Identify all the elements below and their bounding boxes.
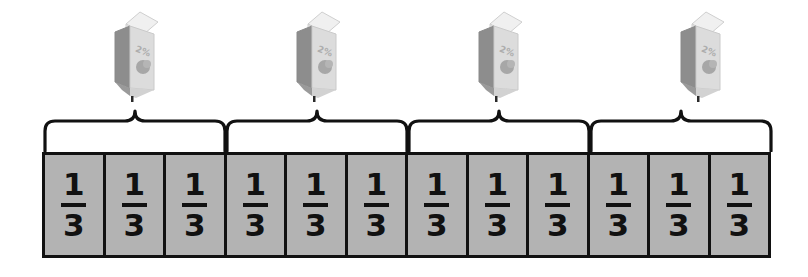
- fraction-denominator: 3: [244, 209, 266, 241]
- milk-carton-2: 2%: [288, 10, 350, 102]
- fraction-cell: 13: [45, 155, 106, 255]
- fraction-denominator: 3: [668, 209, 690, 241]
- fraction-numerator: 1: [365, 169, 387, 201]
- fraction-numerator: 1: [244, 169, 266, 201]
- fraction-cell: 13: [348, 155, 409, 255]
- milk-carton-3: 2%: [470, 10, 532, 102]
- fraction-denominator: 3: [426, 209, 448, 241]
- fraction-bar: 131313131313131313131313: [42, 152, 771, 258]
- fraction-cell: 13: [650, 155, 711, 255]
- fraction-numerator: 1: [123, 169, 145, 201]
- fraction-label: 13: [727, 169, 752, 241]
- fraction-cell: 13: [529, 155, 590, 255]
- fraction-denominator: 3: [728, 209, 750, 241]
- fraction-numerator: 1: [728, 169, 750, 201]
- fraction-cell: 13: [106, 155, 167, 255]
- fraction-diagram: 2% 2%: [0, 0, 808, 277]
- group-brace-1: [42, 106, 228, 152]
- fraction-label: 13: [485, 169, 510, 241]
- fraction-cell: 13: [227, 155, 288, 255]
- fraction-label: 13: [666, 169, 691, 241]
- fraction-numerator: 1: [547, 169, 569, 201]
- fraction-numerator: 1: [426, 169, 448, 201]
- fraction-denominator: 3: [607, 209, 629, 241]
- fraction-label: 13: [182, 169, 207, 241]
- fraction-label: 13: [545, 169, 570, 241]
- fraction-label: 13: [606, 169, 631, 241]
- fraction-cell: 13: [166, 155, 227, 255]
- milk-carton-4: 2%: [672, 10, 734, 102]
- fraction-cell: 13: [287, 155, 348, 255]
- fraction-numerator: 1: [668, 169, 690, 201]
- fraction-cell: 13: [469, 155, 530, 255]
- fraction-label: 13: [424, 169, 449, 241]
- group-brace-4: [588, 106, 774, 152]
- group-brace-3: [406, 106, 592, 152]
- fraction-numerator: 1: [305, 169, 327, 201]
- group-brace-2: [224, 106, 410, 152]
- fraction-cell: 13: [711, 155, 769, 255]
- fraction-label: 13: [61, 169, 86, 241]
- fraction-denominator: 3: [547, 209, 569, 241]
- fraction-denominator: 3: [123, 209, 145, 241]
- fraction-numerator: 1: [486, 169, 508, 201]
- fraction-label: 13: [364, 169, 389, 241]
- fraction-denominator: 3: [184, 209, 206, 241]
- fraction-label: 13: [122, 169, 147, 241]
- fraction-cell: 13: [408, 155, 469, 255]
- fraction-label: 13: [303, 169, 328, 241]
- fraction-denominator: 3: [486, 209, 508, 241]
- milk-carton-1: 2%: [106, 10, 168, 102]
- fraction-numerator: 1: [63, 169, 85, 201]
- fraction-denominator: 3: [63, 209, 85, 241]
- fraction-numerator: 1: [607, 169, 629, 201]
- fraction-label: 13: [243, 169, 268, 241]
- fraction-numerator: 1: [184, 169, 206, 201]
- fraction-cell: 13: [590, 155, 651, 255]
- fraction-denominator: 3: [305, 209, 327, 241]
- fraction-denominator: 3: [365, 209, 387, 241]
